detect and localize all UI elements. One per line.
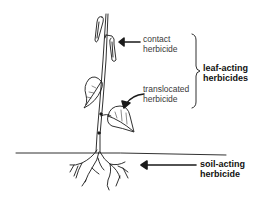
leaf-acting-herbicides-label: leaf-acting herbicides [203, 63, 248, 83]
leaf-acting-bracket [192, 34, 200, 108]
translocated-herbicide-label: translocated herbicide [143, 85, 189, 104]
top-leaf-left [95, 17, 103, 42]
ground-line [16, 153, 226, 155]
lower-heart-leaf [101, 106, 134, 132]
contact-herbicide-label: contact herbicide [143, 35, 178, 54]
soil-arrow-icon [141, 161, 196, 169]
soil-acting-herbicide-label: soil-acting herbicide [200, 159, 245, 179]
roots [70, 150, 128, 190]
contact-arrow-icon [119, 38, 140, 46]
translocated-arrow-icon [122, 94, 144, 108]
